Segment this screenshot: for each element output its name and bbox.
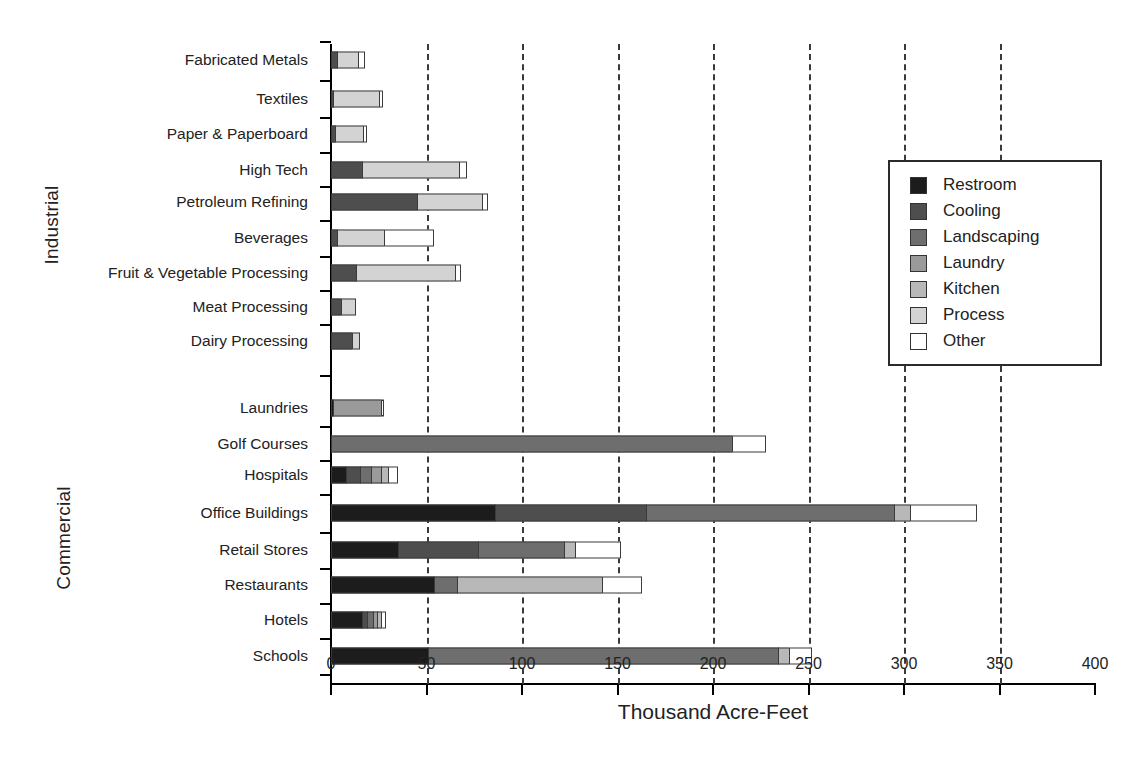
x-axis-tick	[426, 684, 428, 695]
legend: RestroomCoolingLandscapingLaundryKitchen…	[888, 160, 1102, 366]
legend-swatch-restroom	[910, 177, 927, 194]
bar-segment-kitchen	[778, 648, 789, 665]
x-axis-tick	[999, 684, 1001, 695]
x-axis-tick	[808, 684, 810, 695]
bar-segment-other	[381, 400, 385, 417]
bar-segment-cooling	[398, 542, 478, 559]
bar-segment-cooling	[495, 505, 646, 522]
bar-segment-other	[459, 162, 467, 179]
bar-restaurants	[331, 577, 642, 594]
category-label: Schools	[253, 648, 308, 664]
bar-segment-process	[341, 299, 356, 316]
bar-high-tech	[331, 162, 467, 179]
bar-hotels	[331, 612, 386, 629]
category-label: Office Buildings	[201, 505, 308, 521]
category-label: Hotels	[264, 612, 308, 628]
bar-fruit-vegetable-processing	[331, 265, 461, 282]
bar-segment-restroom	[331, 542, 398, 559]
bar-segment-landscaping	[478, 542, 564, 559]
y-axis-tick	[320, 375, 331, 377]
legend-swatch-landscaping	[910, 229, 927, 246]
x-axis-tick-label: 400	[1082, 655, 1109, 673]
legend-swatch-process	[910, 307, 927, 324]
y-axis-tick	[320, 603, 331, 605]
legend-item: Landscaping	[890, 224, 1100, 250]
bar-segment-restroom	[331, 467, 346, 484]
legend-item: Other	[890, 328, 1100, 354]
bar-segment-process	[333, 91, 379, 108]
category-label: Golf Courses	[218, 436, 308, 452]
y-axis-tick	[320, 41, 331, 43]
bar-segment-restroom	[331, 612, 362, 629]
y-axis-tick	[320, 568, 331, 570]
x-axis-tick	[617, 684, 619, 695]
bar-segment-restroom	[331, 505, 495, 522]
legend-label: Laundry	[943, 253, 1004, 273]
y-axis-tick	[320, 117, 331, 119]
x-axis-tick-label: 100	[509, 655, 536, 673]
bar-office-buildings	[331, 505, 977, 522]
y-axis-tick	[320, 638, 331, 640]
water-use-stacked-bar-chart: Industrial Commercial Fabricated MetalsT…	[0, 0, 1132, 781]
bar-segment-cooling	[331, 333, 352, 350]
gridline	[713, 44, 715, 684]
bar-golf-courses	[331, 436, 766, 453]
legend-swatch-cooling	[910, 203, 927, 220]
bar-segment-kitchen	[894, 505, 909, 522]
bar-segment-other	[732, 436, 766, 453]
x-axis-tick	[1094, 684, 1096, 695]
bar-segment-kitchen	[457, 577, 602, 594]
bar-segment-cooling	[331, 162, 362, 179]
bar-segment-other	[363, 126, 367, 143]
bar-retail-stores	[331, 542, 621, 559]
category-label: Retail Stores	[219, 542, 308, 558]
legend-swatch-kitchen	[910, 281, 927, 298]
y-axis-tick	[320, 674, 331, 676]
y-axis-tick	[320, 460, 331, 462]
x-axis-tick	[903, 684, 905, 695]
x-axis-tick-label: 50	[418, 655, 436, 673]
x-axis-tick-label: 0	[327, 655, 336, 673]
bar-segment-process	[335, 126, 364, 143]
bar-segment-process	[356, 265, 455, 282]
bar-segment-other	[384, 230, 434, 247]
bar-segment-process	[417, 194, 482, 211]
x-axis-tick-label: 350	[986, 655, 1013, 673]
category-label: Hospitals	[244, 467, 308, 483]
bar-segment-other	[602, 577, 642, 594]
legend-swatch-other	[910, 333, 927, 350]
y-axis-tick	[320, 80, 331, 82]
y-axis-tick	[320, 532, 331, 534]
category-label: Restaurants	[224, 577, 308, 593]
bar-segment-kitchen	[381, 467, 389, 484]
bar-beverages	[331, 230, 434, 247]
legend-item: Restroom	[890, 172, 1100, 198]
category-label: Dairy Processing	[191, 333, 308, 349]
bar-segment-laundry	[371, 467, 381, 484]
bar-segment-process	[337, 52, 358, 69]
legend-swatch-laundry	[910, 255, 927, 272]
category-axis-labels: Fabricated MetalsTextilesPaper & Paperbo…	[0, 0, 322, 781]
bar-meat-processing	[331, 299, 356, 316]
bar-schools	[331, 648, 812, 665]
bar-segment-other	[910, 505, 977, 522]
bar-segment-other	[575, 542, 621, 559]
category-label: Textiles	[256, 91, 308, 107]
bar-segment-restroom	[331, 648, 428, 665]
x-axis-tick	[521, 684, 523, 695]
bar-paper-paperboard	[331, 126, 367, 143]
x-axis-tick-label: 200	[700, 655, 727, 673]
bar-segment-cooling	[346, 467, 359, 484]
x-axis-tick	[712, 684, 714, 695]
legend-label: Landscaping	[943, 227, 1039, 247]
bar-segment-restroom	[331, 577, 434, 594]
y-axis-tick	[320, 494, 331, 496]
bar-dairy-processing	[331, 333, 360, 350]
bar-fabricated-metals	[331, 52, 365, 69]
x-axis-tick-label: 150	[604, 655, 631, 673]
bar-textiles	[331, 91, 383, 108]
legend-label: Kitchen	[943, 279, 1000, 299]
bar-segment-landscaping	[434, 577, 457, 594]
x-axis-tick-label: 300	[891, 655, 918, 673]
y-axis-tick	[320, 290, 331, 292]
